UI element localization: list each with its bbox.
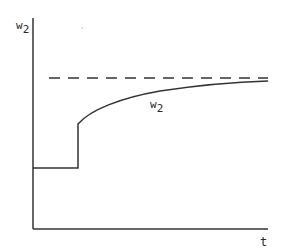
curve-label: w2 <box>150 98 163 115</box>
y-axis-label: w2 <box>16 19 29 36</box>
x-axis-label: t <box>260 235 267 249</box>
speck <box>81 27 82 28</box>
chart: w2 w2 t <box>0 0 284 252</box>
w2-curve <box>33 81 268 168</box>
